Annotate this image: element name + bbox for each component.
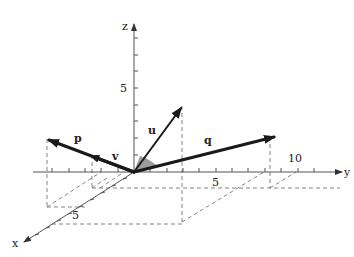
y-axis-label: y — [343, 166, 351, 179]
vectors: p v u q — [49, 108, 274, 172]
y-tick-label-10: 10 — [288, 152, 302, 165]
vector-q-label: q — [204, 134, 212, 147]
vector-u-label: u — [148, 124, 156, 137]
vector-p-label: p — [74, 132, 82, 145]
x-tick-label-5: 5 — [72, 209, 79, 222]
x-axis-label: x — [12, 237, 19, 250]
projection-lines — [47, 106, 340, 224]
vector-v-label: v — [111, 150, 119, 163]
axes: z y x 5 5 10 5 — [12, 20, 351, 250]
z-tick-label-5: 5 — [120, 82, 127, 95]
z-axis-label: z — [122, 20, 128, 33]
vector-diagram: z y x 5 5 10 5 p v u q — [0, 0, 354, 257]
y-tick-label-5: 5 — [212, 176, 219, 189]
